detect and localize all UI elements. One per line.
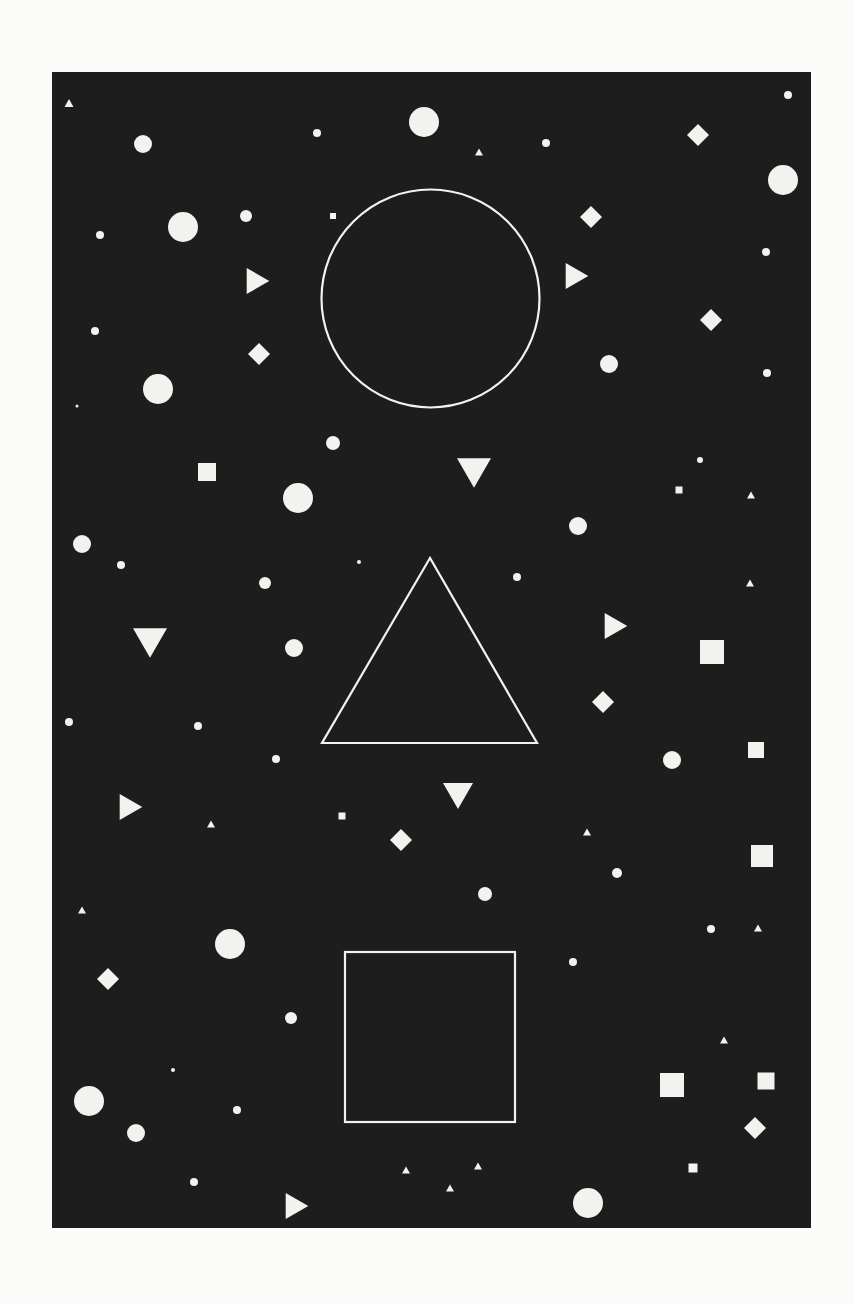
circle-dot-icon <box>409 107 439 137</box>
circle-dot-icon <box>513 573 521 581</box>
diamond-icon <box>97 968 119 990</box>
square-icon <box>330 213 336 219</box>
triangle-down-icon <box>133 628 167 658</box>
triangle-down-icon <box>443 783 473 809</box>
triangle-up-icon <box>78 907 86 914</box>
circle-dot-icon <box>96 231 104 239</box>
triangle-up-icon <box>207 821 215 828</box>
circle-dot-icon <box>283 483 313 513</box>
shapes-canvas <box>52 72 811 1228</box>
circle-dot-icon <box>285 1012 297 1024</box>
circle-dot-icon <box>215 929 245 959</box>
circle-dot-icon <box>762 248 770 256</box>
circle-dot-icon <box>117 561 125 569</box>
diamond-icon <box>744 1117 766 1139</box>
circle-dot-icon <box>569 958 577 966</box>
square-icon <box>748 742 764 758</box>
triangle-down-icon <box>457 458 491 488</box>
square-icon <box>339 813 346 820</box>
circle-dot-icon <box>707 925 715 933</box>
circle-dot-icon <box>194 722 202 730</box>
triangle-up-icon <box>720 1037 728 1044</box>
square-icon <box>758 1073 775 1090</box>
diamond-icon <box>580 206 602 228</box>
triangle-up-icon <box>474 1163 482 1170</box>
triangle-right-icon <box>566 263 589 289</box>
circle-dot-icon <box>326 436 340 450</box>
triangle-right-icon <box>247 268 270 294</box>
circle-dot-icon <box>127 1124 145 1142</box>
circle-dot-icon <box>143 374 173 404</box>
circle-dot-icon <box>697 457 703 463</box>
triangle-up-icon <box>402 1167 410 1174</box>
outline-circle-icon <box>322 190 540 408</box>
circle-dot-icon <box>272 755 280 763</box>
circle-dot-icon <box>612 868 622 878</box>
triangle-up-icon <box>583 829 591 836</box>
diamond-icon <box>592 691 614 713</box>
square-icon <box>660 1073 684 1097</box>
circle-dot-icon <box>357 560 361 564</box>
triangle-up-icon <box>746 580 754 587</box>
triangle-up-icon <box>446 1185 454 1192</box>
circle-dot-icon <box>663 751 681 769</box>
square-icon <box>751 845 773 867</box>
circle-dot-icon <box>76 405 79 408</box>
diamond-icon <box>248 343 270 365</box>
circle-dot-icon <box>91 327 99 335</box>
circle-dot-icon <box>542 139 550 147</box>
circle-dot-icon <box>573 1188 603 1218</box>
circle-dot-icon <box>763 369 771 377</box>
circle-dot-icon <box>65 718 73 726</box>
circle-dot-icon <box>784 91 792 99</box>
circle-dot-icon <box>171 1068 175 1072</box>
circle-dot-icon <box>569 517 587 535</box>
circle-dot-icon <box>168 212 198 242</box>
circle-dot-icon <box>768 165 798 195</box>
triangle-up-icon <box>65 99 74 107</box>
square-icon <box>700 640 724 664</box>
circle-dot-icon <box>74 1086 104 1116</box>
circle-dot-icon <box>600 355 618 373</box>
triangle-right-icon <box>286 1193 309 1219</box>
square-icon <box>198 463 216 481</box>
circle-dot-icon <box>313 129 321 137</box>
outline-square-icon <box>345 952 515 1122</box>
circle-dot-icon <box>134 135 152 153</box>
square-icon <box>676 487 683 494</box>
triangle-up-icon <box>475 149 483 156</box>
circle-dot-icon <box>259 577 271 589</box>
triangle-up-icon <box>747 492 755 499</box>
square-icon <box>689 1164 698 1173</box>
circle-dot-icon <box>73 535 91 553</box>
circle-dot-icon <box>190 1178 198 1186</box>
circle-dot-icon <box>285 639 303 657</box>
triangle-up-icon <box>754 925 762 932</box>
diamond-icon <box>390 829 412 851</box>
triangle-right-icon <box>605 613 628 639</box>
circle-dot-icon <box>478 887 492 901</box>
diamond-icon <box>687 124 709 146</box>
diamond-icon <box>700 309 722 331</box>
circle-dot-icon <box>240 210 252 222</box>
geometric-poster <box>52 72 811 1228</box>
outline-triangle-icon <box>322 558 537 743</box>
circle-dot-icon <box>233 1106 241 1114</box>
triangle-right-icon <box>120 794 143 820</box>
